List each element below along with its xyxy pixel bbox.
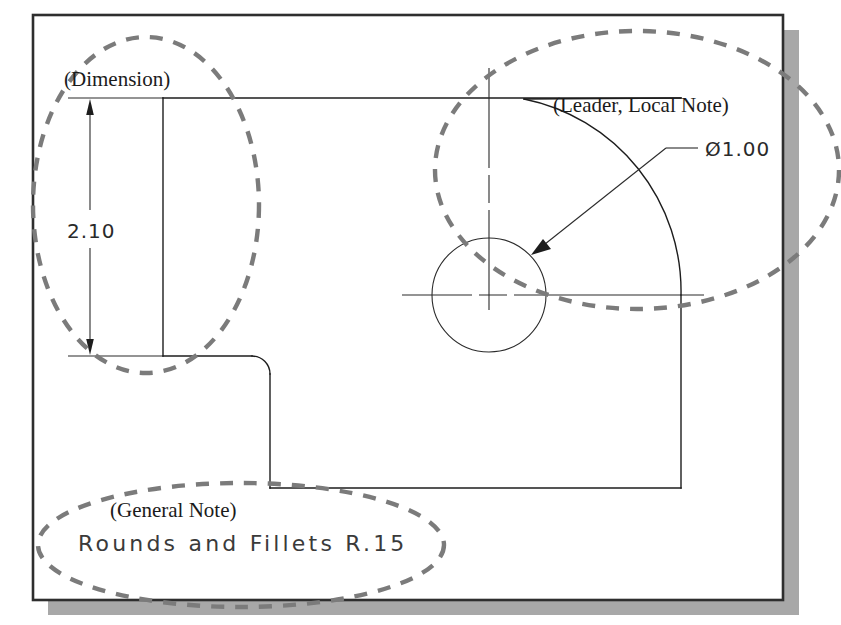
frame-shadow-right [783, 30, 799, 615]
dimension-value-text: 2.10 [67, 219, 116, 243]
callout-dimension-label: (Dimension) [64, 67, 170, 91]
callout-leader-label: (Leader, Local Note) [553, 93, 729, 117]
callout-general-note-label: (General Note) [110, 498, 237, 522]
drawing-canvas: 2.10 Ø1.00 Rounds and Fillets R.15 (Dime… [0, 0, 841, 625]
frame-shadow-bottom [48, 600, 799, 615]
diameter-note-text: Ø1.00 [705, 137, 770, 161]
technical-drawing: 2.10 Ø1.00 Rounds and Fillets R.15 (Dime… [0, 0, 841, 625]
general-note-text: Rounds and Fillets R.15 [78, 531, 408, 556]
